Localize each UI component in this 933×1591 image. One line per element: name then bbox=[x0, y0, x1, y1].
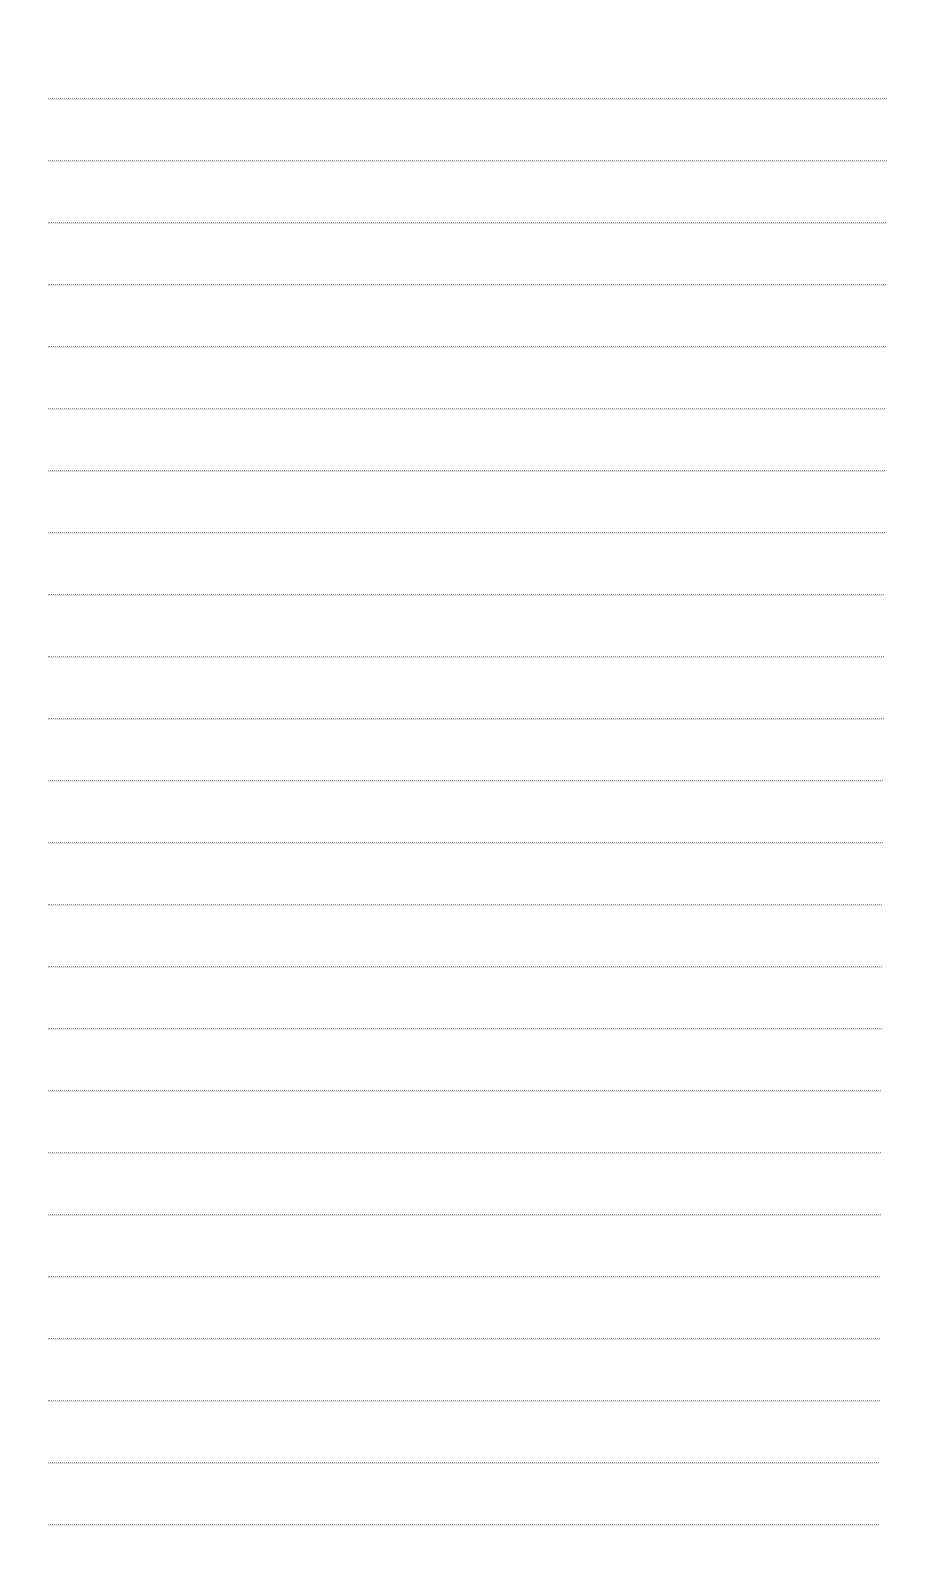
ruled-line bbox=[48, 98, 887, 99]
ruled-line bbox=[48, 1400, 880, 1401]
ruled-line bbox=[48, 222, 886, 223]
ruled-line bbox=[48, 904, 882, 905]
ruled-paper-sheet bbox=[0, 0, 933, 1591]
ruled-line bbox=[48, 532, 885, 533]
ruled-line bbox=[48, 718, 884, 719]
ruled-line bbox=[48, 284, 886, 285]
ruled-line bbox=[48, 346, 886, 347]
ruled-line bbox=[48, 842, 883, 843]
ruled-line bbox=[48, 1152, 881, 1153]
ruled-line bbox=[48, 780, 883, 781]
ruled-line bbox=[48, 408, 885, 409]
ruled-line bbox=[48, 594, 884, 595]
ruled-line bbox=[48, 1462, 879, 1463]
ruled-line bbox=[48, 1090, 881, 1091]
ruled-line bbox=[48, 1276, 880, 1277]
ruled-line bbox=[48, 1338, 880, 1339]
ruled-line bbox=[48, 1524, 879, 1525]
ruled-line bbox=[48, 470, 885, 471]
ruled-line bbox=[48, 1028, 882, 1029]
ruled-line bbox=[48, 656, 884, 657]
ruled-line bbox=[48, 966, 882, 967]
ruled-line bbox=[48, 1214, 881, 1215]
ruled-line bbox=[48, 160, 887, 161]
